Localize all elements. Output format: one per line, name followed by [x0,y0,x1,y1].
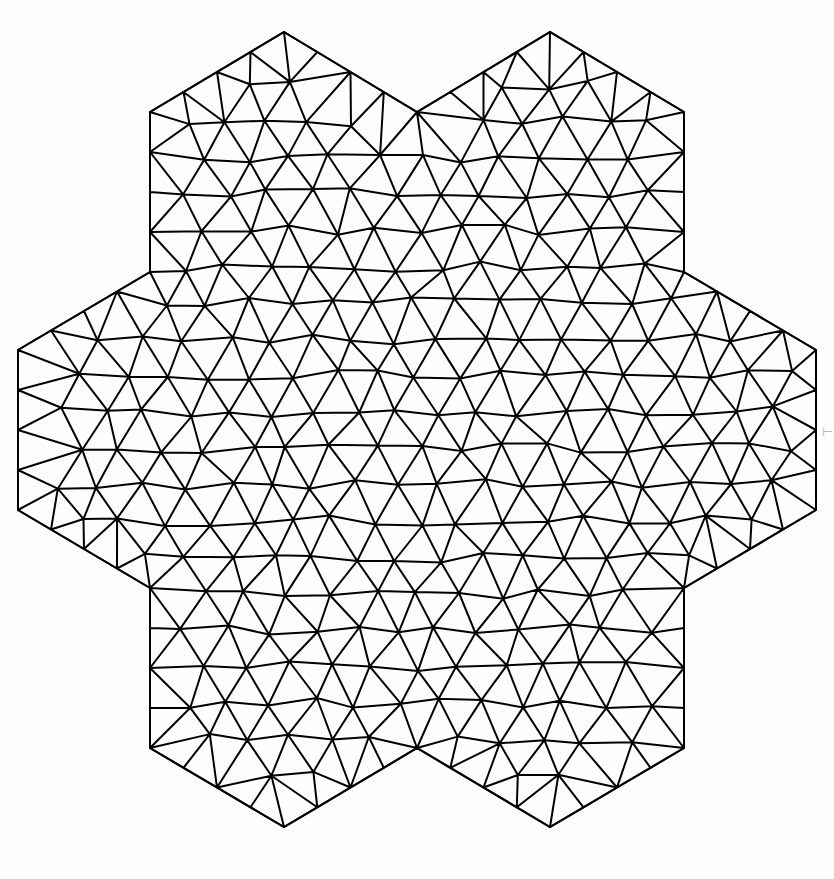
figure-root: ⊢ [0,0,834,879]
triangular-mesh-plot [0,0,834,879]
right-edge-marker-icon: ⊢ [822,426,832,438]
